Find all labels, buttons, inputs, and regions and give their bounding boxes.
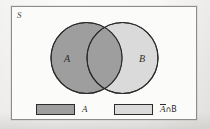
- legend-swatch-dark: [36, 104, 75, 115]
- legend-item-a: A: [36, 104, 88, 115]
- legend-swatch-light: [114, 104, 153, 115]
- figure-page: S A B A: [0, 0, 210, 129]
- legend-label-a-complement-intersect-b: A∩B: [160, 104, 177, 114]
- legend-label-intersect-b: ∩B: [166, 105, 177, 114]
- legend-label-a: A: [82, 105, 88, 114]
- legend: A A∩B: [11, 100, 197, 120]
- set-b-label: B: [139, 53, 145, 64]
- legend-item-a-complement-intersect-b: A∩B: [114, 104, 177, 115]
- set-a-label: A: [63, 53, 71, 64]
